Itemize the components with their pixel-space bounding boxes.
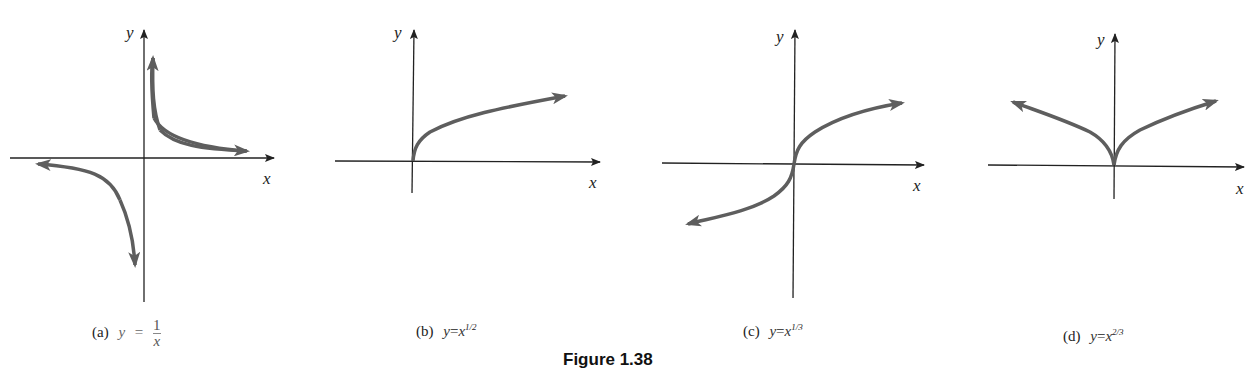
curve-left-branch — [1013, 102, 1114, 165]
panel-d-caption: (d) y=x2/3 — [1063, 327, 1124, 345]
panel-a-letter: (a) — [92, 324, 109, 340]
panel-a-y-label: y — [124, 23, 134, 42]
panel-d-eq-lhs: y — [1090, 328, 1097, 344]
x-axis — [988, 165, 1244, 167]
x-axis — [335, 161, 600, 162]
curve-branch-negative-arrow-down — [120, 200, 135, 265]
curve-cube-root-left — [688, 164, 794, 224]
panel-c-graph — [662, 30, 924, 298]
panel-b-y-label: y — [392, 23, 402, 42]
panel-c-eq-op: = — [776, 323, 784, 339]
panel-d-x-label: x — [1235, 179, 1244, 198]
panel-b-x-label: x — [588, 173, 597, 192]
panel-d-eq-exp: 2/3 — [1112, 327, 1124, 337]
panel-d-graph — [988, 34, 1244, 199]
panel-d-y-label: y — [1095, 30, 1105, 49]
panel-b-caption: (b) y=x1/2 — [416, 322, 477, 340]
panel-a-x-label: x — [262, 169, 271, 188]
panel-c-letter: (c) — [743, 323, 760, 339]
curve-branch-negative-arrow-left — [38, 164, 120, 200]
y-axis — [412, 30, 414, 193]
panel-a-eq-lhs: y — [118, 324, 125, 340]
fraction-numerator: 1 — [153, 318, 161, 334]
panel-a-caption: (a) y = 1 x — [92, 318, 161, 349]
curve-cube-root-right — [794, 103, 902, 164]
panel-c-x-label: x — [912, 176, 921, 195]
fraction-denominator: x — [153, 334, 161, 349]
y-axis — [1114, 34, 1115, 199]
panel-a-eq-op: = — [135, 324, 143, 340]
panel-c-y-label: y — [774, 27, 784, 46]
panel-b-eq-lhs: y — [443, 323, 450, 339]
figure-title: Figure 1.38 — [563, 350, 653, 370]
panel-b-letter: (b) — [416, 323, 434, 339]
panel-b-graph — [335, 30, 600, 193]
panel-a-graph — [10, 30, 274, 302]
panel-c-caption: (c) y=x1/3 — [743, 322, 803, 340]
panel-b-eq-exp: 1/2 — [465, 322, 477, 332]
curve-right-branch — [1114, 101, 1216, 165]
panel-a-fraction: 1 x — [153, 318, 161, 349]
panel-d-letter: (d) — [1063, 328, 1081, 344]
panel-c-eq-exp: 1/3 — [791, 322, 803, 332]
curve-branch-positive — [152, 58, 246, 151]
curve-sqrt — [413, 96, 565, 161]
